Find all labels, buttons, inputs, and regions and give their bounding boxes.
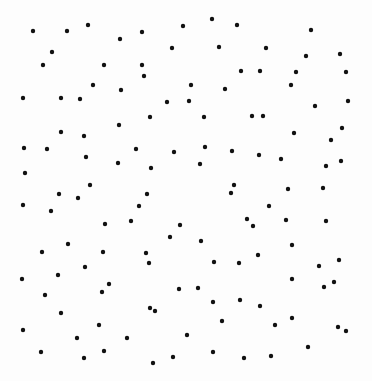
dot	[172, 150, 176, 154]
dot	[165, 100, 169, 104]
dot	[21, 328, 25, 332]
dot	[235, 23, 239, 27]
dot	[59, 130, 63, 134]
dot	[322, 285, 326, 289]
dot	[31, 29, 35, 33]
dot	[212, 260, 216, 264]
dot	[177, 287, 181, 291]
dot	[147, 261, 151, 265]
dot	[344, 329, 348, 333]
dot	[290, 277, 294, 281]
dot	[65, 29, 69, 33]
dot	[199, 239, 203, 243]
dot	[129, 219, 133, 223]
dot	[102, 349, 106, 353]
dot	[170, 46, 174, 50]
dot	[223, 87, 227, 91]
dot	[258, 69, 262, 73]
dot	[76, 196, 80, 200]
dot	[41, 63, 45, 67]
dot	[269, 354, 273, 358]
dot	[242, 356, 246, 360]
dot	[321, 186, 325, 190]
dot	[137, 204, 141, 208]
dot	[237, 261, 241, 265]
dot	[116, 161, 120, 165]
dot	[202, 115, 206, 119]
dot	[273, 323, 277, 327]
dot	[100, 290, 104, 294]
dot	[118, 37, 122, 41]
dot	[238, 298, 242, 302]
dot	[57, 192, 61, 196]
dot	[324, 219, 328, 223]
dot	[336, 325, 340, 329]
dot	[107, 282, 111, 286]
dot	[267, 204, 271, 208]
dot	[340, 126, 344, 130]
dot	[97, 323, 101, 327]
dot	[21, 96, 25, 100]
dot	[210, 17, 214, 21]
dot	[39, 350, 43, 354]
dot	[22, 146, 26, 150]
dot	[20, 277, 24, 281]
dot	[40, 250, 44, 254]
dot	[82, 134, 86, 138]
dot	[56, 273, 60, 277]
dot	[211, 300, 215, 304]
dot	[289, 83, 293, 87]
dot	[198, 162, 202, 166]
dot	[245, 217, 249, 221]
dot	[144, 251, 148, 255]
dot	[125, 336, 129, 340]
dot	[229, 191, 233, 195]
dot	[257, 153, 261, 157]
dot	[148, 115, 152, 119]
dot	[309, 28, 313, 32]
dot	[339, 159, 343, 163]
dot-pattern-canvas	[0, 0, 372, 381]
dot	[148, 306, 152, 310]
dot	[261, 114, 265, 118]
dot	[151, 361, 155, 365]
dot	[149, 166, 153, 170]
dot	[203, 145, 207, 149]
dot	[168, 235, 172, 239]
dot	[153, 309, 157, 313]
dot	[140, 30, 144, 34]
dot	[251, 224, 255, 228]
dot	[217, 45, 221, 49]
dot	[91, 83, 95, 87]
dot	[178, 223, 182, 227]
dot	[66, 242, 70, 246]
dot	[23, 171, 27, 175]
dot	[286, 187, 290, 191]
dot	[220, 319, 224, 323]
dot	[88, 183, 92, 187]
dot	[103, 222, 107, 226]
dot	[232, 183, 236, 187]
dot	[142, 74, 146, 78]
dot	[189, 83, 193, 87]
dot	[292, 131, 296, 135]
dot	[264, 46, 268, 50]
dot	[187, 99, 191, 103]
dot	[344, 70, 348, 74]
dot	[75, 336, 79, 340]
dot	[304, 54, 308, 58]
dot	[101, 250, 105, 254]
dot	[290, 243, 294, 247]
dot	[313, 104, 317, 108]
dot	[324, 164, 328, 168]
dot	[84, 155, 88, 159]
dot	[82, 356, 86, 360]
dot	[181, 24, 185, 28]
dot	[21, 203, 25, 207]
dot	[258, 304, 262, 308]
dot	[171, 355, 175, 359]
dot	[50, 50, 54, 54]
dot	[290, 316, 294, 320]
dot	[306, 345, 310, 349]
random-dot-field	[0, 0, 372, 381]
